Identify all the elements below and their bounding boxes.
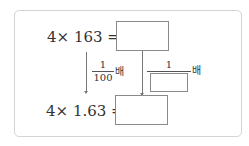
right-fraction-numerator: 1 xyxy=(147,60,191,70)
bottom-answer-box[interactable] xyxy=(115,95,168,125)
right-factor-suffix: 배 xyxy=(192,66,201,76)
left-fraction-denominator: 100 xyxy=(92,73,114,83)
right-fraction-bar xyxy=(147,71,191,72)
left-factor-suffix: 배 xyxy=(115,67,124,77)
left-fraction-numerator: 1 xyxy=(92,60,114,70)
top-expression: 4× 163 = xyxy=(47,29,120,45)
left-down-arrow-line xyxy=(86,52,87,92)
right-down-arrow-line xyxy=(142,51,143,94)
denominator-answer-box[interactable] xyxy=(150,73,188,92)
top-answer-box[interactable] xyxy=(116,21,169,51)
bottom-expression: 4× 1.63 = xyxy=(46,103,124,119)
left-arrowhead-icon xyxy=(84,91,88,94)
